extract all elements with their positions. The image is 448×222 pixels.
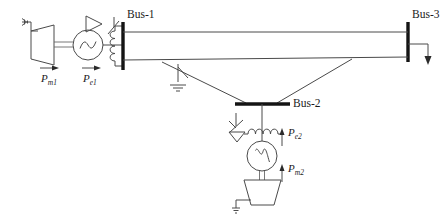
pm1-subscript: m1 <box>48 78 57 87</box>
delta-winding-icon-unit2 <box>229 132 245 142</box>
pe1-subscript: e1 <box>90 78 97 87</box>
power-arrow-pm2 <box>280 164 285 182</box>
pe2-symbol: P <box>288 126 295 138</box>
turbine-2 <box>244 180 281 205</box>
line-bus1-bus3-lower <box>123 57 408 60</box>
transformer-1 <box>110 26 115 66</box>
bus-3-label: Bus-3 <box>412 8 439 20</box>
generator-1 <box>73 30 103 60</box>
pm2-subscript: m2 <box>295 168 304 177</box>
pm1-label: Pm1 <box>41 72 57 84</box>
pe2-subscript: e2 <box>295 132 302 141</box>
power-arrow-pe1 <box>82 66 101 71</box>
bus-2-label: Bus-2 <box>293 97 320 109</box>
shaft-generator2-turbine2 <box>260 171 265 180</box>
pe1-symbol: P <box>83 72 90 84</box>
steam-inlet-icon-unit2 <box>232 200 251 213</box>
pm1-symbol: P <box>41 72 48 84</box>
generator-2 <box>247 141 277 171</box>
line-bus1-bus2 <box>162 62 246 103</box>
shaft-turbine1-generator1 <box>54 42 73 47</box>
transformer-2 <box>244 129 282 134</box>
one-line-diagram: Bus-1 Bus-2 Bus-3 Pm1 Pe1 Pe2 Pm2 <box>0 0 448 222</box>
steam-inlet-icon-unit1 <box>22 19 38 32</box>
power-arrow-pe2 <box>280 128 285 146</box>
breaker-2 <box>229 113 243 133</box>
power-arrow-pm1 <box>40 66 59 71</box>
diagram-canvas <box>0 0 448 222</box>
pm2-label: Pm2 <box>288 162 304 174</box>
pe1-label: Pe1 <box>83 72 97 84</box>
disconnect-switch-with-ground[interactable] <box>170 64 188 91</box>
load-arrow-bus3 <box>408 44 432 65</box>
bus-1-label: Bus-1 <box>127 8 154 20</box>
pe2-label: Pe2 <box>288 126 302 138</box>
pm2-symbol: P <box>288 162 295 174</box>
